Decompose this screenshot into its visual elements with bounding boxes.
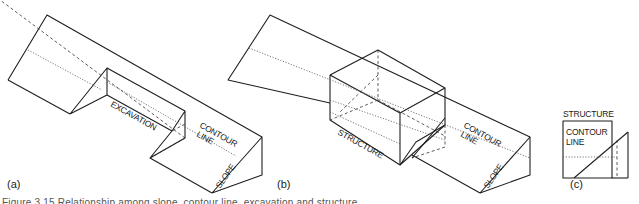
structure-label: STRUCTURE bbox=[563, 109, 614, 119]
figure-canvas: EXCAVATION CONTOUR LINE SLOPE STRUCTURE … bbox=[0, 0, 639, 204]
figure-caption: Figure 3.15 Relationship among slope, co… bbox=[2, 197, 357, 204]
slope-label: SLOPE bbox=[481, 162, 505, 191]
slope-label: SLOPE bbox=[213, 162, 237, 191]
panel-b-drawing bbox=[228, 15, 530, 193]
contour-label: CONTOUR bbox=[566, 127, 607, 137]
panel-a-drawing bbox=[0, 0, 262, 193]
panel-b-labels: STRUCTURE CONTOUR LINE SLOPE bbox=[336, 120, 506, 190]
excavation-label: EXCAVATION bbox=[109, 99, 158, 132]
structure-label: STRUCTURE bbox=[336, 127, 386, 161]
line-label: LINE bbox=[566, 137, 585, 147]
panel-a-label: (a) bbox=[7, 178, 20, 190]
panel-c-label: (c) bbox=[570, 178, 583, 190]
panel-c-labels: STRUCTURE CONTOUR LINE bbox=[563, 109, 614, 147]
panel-b-label: (b) bbox=[277, 178, 290, 190]
